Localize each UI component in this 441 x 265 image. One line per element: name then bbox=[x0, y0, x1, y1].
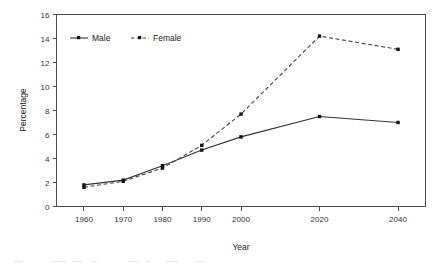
data-point-female-1990 bbox=[200, 144, 203, 147]
x-tick-label: 2020 bbox=[311, 215, 329, 224]
x-tick-label: 2000 bbox=[232, 215, 250, 224]
series-layer bbox=[82, 34, 399, 189]
legend-label-female: Female bbox=[153, 33, 182, 43]
data-point-female-1960 bbox=[82, 186, 85, 189]
x-tick-label: 1980 bbox=[154, 215, 172, 224]
data-point-female-2000 bbox=[239, 112, 242, 115]
y-tick-label: 16 bbox=[41, 11, 50, 20]
x-tick-label: 1990 bbox=[193, 215, 211, 224]
x-axis-ticks: 1960197019801990200020202040 bbox=[75, 207, 407, 224]
chart-container: 0246810121416 19601970198019902000202020… bbox=[0, 0, 441, 265]
legend-label-male: Male bbox=[92, 33, 111, 43]
y-tick-label: 2 bbox=[45, 179, 50, 188]
data-point-male-2000 bbox=[239, 135, 242, 138]
x-tick-label: 1960 bbox=[75, 215, 93, 224]
y-tick-label: 6 bbox=[45, 131, 50, 140]
y-tick-label: 10 bbox=[41, 83, 50, 92]
legend-marker-female bbox=[138, 36, 141, 39]
data-point-male-2040 bbox=[396, 121, 399, 124]
data-point-female-2040 bbox=[396, 48, 399, 51]
y-axis-title: Percentage bbox=[18, 88, 28, 132]
series-line-female bbox=[84, 36, 398, 187]
series-line-male bbox=[84, 117, 398, 185]
y-tick-label: 4 bbox=[45, 155, 50, 164]
data-point-female-2020 bbox=[318, 34, 321, 37]
legend-marker-male bbox=[77, 36, 80, 39]
data-point-male-1990 bbox=[200, 148, 203, 151]
data-point-male-2020 bbox=[318, 115, 321, 118]
y-tick-label: 8 bbox=[45, 107, 50, 116]
y-tick-label: 12 bbox=[41, 59, 50, 68]
chart-legend: Male Female bbox=[70, 33, 182, 43]
x-tick-label: 1970 bbox=[114, 215, 132, 224]
data-point-female-1980 bbox=[161, 166, 164, 169]
y-axis-ticks: 0246810121416 bbox=[41, 11, 57, 212]
x-tick-label: 2040 bbox=[389, 215, 407, 224]
y-tick-label: 0 bbox=[45, 203, 50, 212]
line-chart: 0246810121416 19601970198019902000202020… bbox=[0, 0, 441, 265]
y-tick-label: 14 bbox=[41, 35, 50, 44]
data-point-female-1970 bbox=[122, 180, 125, 183]
scan-artifacts bbox=[14, 261, 204, 262]
plot-area-frame bbox=[57, 15, 426, 207]
x-axis-title: Year bbox=[232, 242, 249, 252]
